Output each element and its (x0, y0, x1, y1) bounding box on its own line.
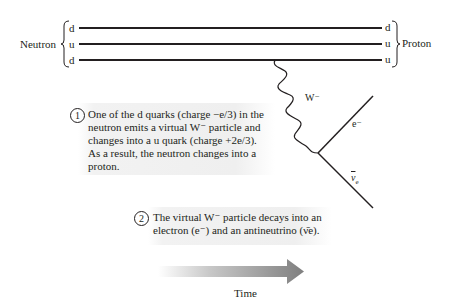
step1-line-1: One of the d quarks (charge −e/3) in the (88, 108, 264, 121)
step2-line-2: electron (e⁻) and an antineutrino (ν̄e). (153, 224, 322, 237)
neutron-brace (61, 21, 69, 67)
proton-quark-1: d (385, 21, 391, 33)
time-label: Time (234, 287, 257, 299)
step2-number-badge: 2 (134, 211, 149, 226)
proton-brace (392, 21, 400, 67)
electron-label: e⁻ (352, 118, 362, 130)
proton-quark-3: u (385, 53, 391, 65)
step1-line-2: neutron emits a virtual W⁻ particle and (88, 121, 264, 134)
step1-text: One of the d quarks (charge −e/3) in the… (88, 108, 264, 173)
step1-line-3: changes into a u quark (charge +2e/3). (88, 134, 264, 147)
neutron-quark-1: d (69, 22, 75, 34)
electron-line (318, 96, 373, 153)
proton-quark-2: u (385, 37, 391, 49)
step2-text: The virtual W⁻ particle decays into an e… (153, 211, 322, 237)
step1-number-badge: 1 (70, 108, 85, 123)
neutron-quark-3: d (69, 54, 75, 66)
w-boson-wavy-line (274, 60, 318, 153)
step2-line-1: The virtual W⁻ particle decays into an (153, 211, 322, 224)
time-arrow (158, 259, 304, 284)
neutron-label: Neutron (20, 38, 56, 50)
antineutrino-line (318, 153, 373, 208)
step1-line-5: proton. (88, 160, 264, 173)
antineutrino-label: νe (351, 172, 359, 188)
w-boson-label: W⁻ (305, 92, 320, 104)
proton-label: Proton (402, 37, 431, 49)
neutron-quark-2: u (69, 38, 75, 50)
step1-line-4: As a result, the neutron changes into a (88, 147, 264, 160)
